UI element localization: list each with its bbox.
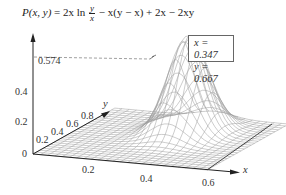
y-axis-arrow-icon: [101, 111, 110, 118]
fraction-denominator: x: [89, 14, 95, 23]
x-axis-label: x: [243, 164, 248, 175]
z-axis-arrow-icon: [31, 33, 36, 42]
z-tick-0.4: 0.4: [15, 86, 28, 97]
y-tick-0.8: 0.8: [81, 110, 94, 121]
y-axis-label: y: [103, 98, 108, 109]
x-axis-arrow-icon: [230, 170, 240, 175]
formula-eq: = 2x ln: [54, 6, 85, 18]
x-tick-0.2: 0.2: [82, 164, 95, 175]
y-tick-0.2: 0.2: [36, 134, 49, 145]
z-tick-0: 0: [22, 148, 27, 159]
peak-marker-icon: [150, 55, 156, 59]
floor-edge: [207, 124, 272, 170]
formula-title: P(x, y) = 2x ln yx − x(y − x) + 2x − 2xy: [22, 4, 194, 23]
surface-mesh: [33, 36, 286, 170]
y-tick-0.4: 0.4: [51, 126, 64, 137]
formula-fraction: yx: [89, 4, 95, 23]
infobox-y-value: y = 0.667: [194, 61, 233, 85]
max-point-infobox: x = 0.347 y = 0.667: [188, 35, 234, 62]
z-max-label: 0.574: [38, 55, 61, 66]
infobox-x-value: x = 0.347: [194, 37, 233, 61]
formula-rhs: − x(y − x) + 2x − 2xy: [99, 6, 194, 18]
x-tick-0.6: 0.6: [202, 177, 215, 188]
formula-lhs: P(x, y): [22, 6, 51, 18]
y-tick-0.6: 0.6: [66, 118, 79, 129]
x-tick-0.4: 0.4: [140, 173, 153, 184]
z-tick-0.2: 0.2: [15, 116, 28, 127]
